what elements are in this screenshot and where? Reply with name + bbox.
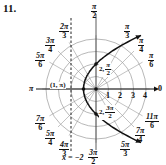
angle-label-pi: π bbox=[29, 85, 33, 93]
polar-graph: 11. π 2 π 3 π 4 π 6 2π 3 3π 4 5π 6 π 7π … bbox=[0, 0, 166, 165]
grid-ray bbox=[69, 89, 96, 136]
grid-ray bbox=[69, 42, 96, 89]
radial-tick-2: 2 bbox=[118, 92, 122, 100]
directrix-label: x = −2 bbox=[62, 154, 83, 162]
vertex-point bbox=[82, 87, 86, 91]
angle-label-pi-over-6: π 6 bbox=[148, 52, 154, 69]
angle-label-11pi-over-6: 11π 6 bbox=[145, 113, 159, 130]
angle-label-pi-over-3: π 3 bbox=[124, 23, 130, 40]
angle-label-5pi-over-3: 5π 3 bbox=[120, 141, 130, 158]
radial-tick-1: 1 bbox=[106, 92, 110, 100]
bottom-point bbox=[94, 112, 98, 116]
angle-label-7pi-over-4: 7π 4 bbox=[135, 127, 145, 144]
angle-label-5pi-over-6: 5π 6 bbox=[35, 52, 45, 69]
angle-label-pi-over-4: π 4 bbox=[138, 37, 144, 54]
pole-point bbox=[94, 87, 98, 91]
angle-label-2pi-over-3: 2π 3 bbox=[59, 23, 69, 40]
polar-axis-end-label: 0 bbox=[158, 85, 162, 93]
top-point bbox=[94, 62, 98, 66]
grid-ray bbox=[49, 89, 96, 116]
top-point-label: 2, π 2 bbox=[99, 62, 111, 77]
bottom-point-label: 2, 3π 2 bbox=[99, 105, 115, 120]
angle-label-7pi-over-6: 7π 6 bbox=[35, 115, 45, 132]
radial-tick-3: 3 bbox=[131, 92, 135, 100]
angle-label-5pi-over-4: 5π 4 bbox=[45, 130, 55, 147]
angle-label-3pi-over-2: 3π 2 bbox=[88, 149, 98, 165]
radial-tick-4: 4 bbox=[143, 92, 147, 100]
vertex-point-label: (1, π) bbox=[50, 82, 66, 89]
problem-number: 11. bbox=[3, 3, 16, 14]
angle-label-3pi-over-4: 3π 4 bbox=[45, 37, 55, 54]
angle-label-pi-over-2: π 2 bbox=[91, 3, 97, 20]
